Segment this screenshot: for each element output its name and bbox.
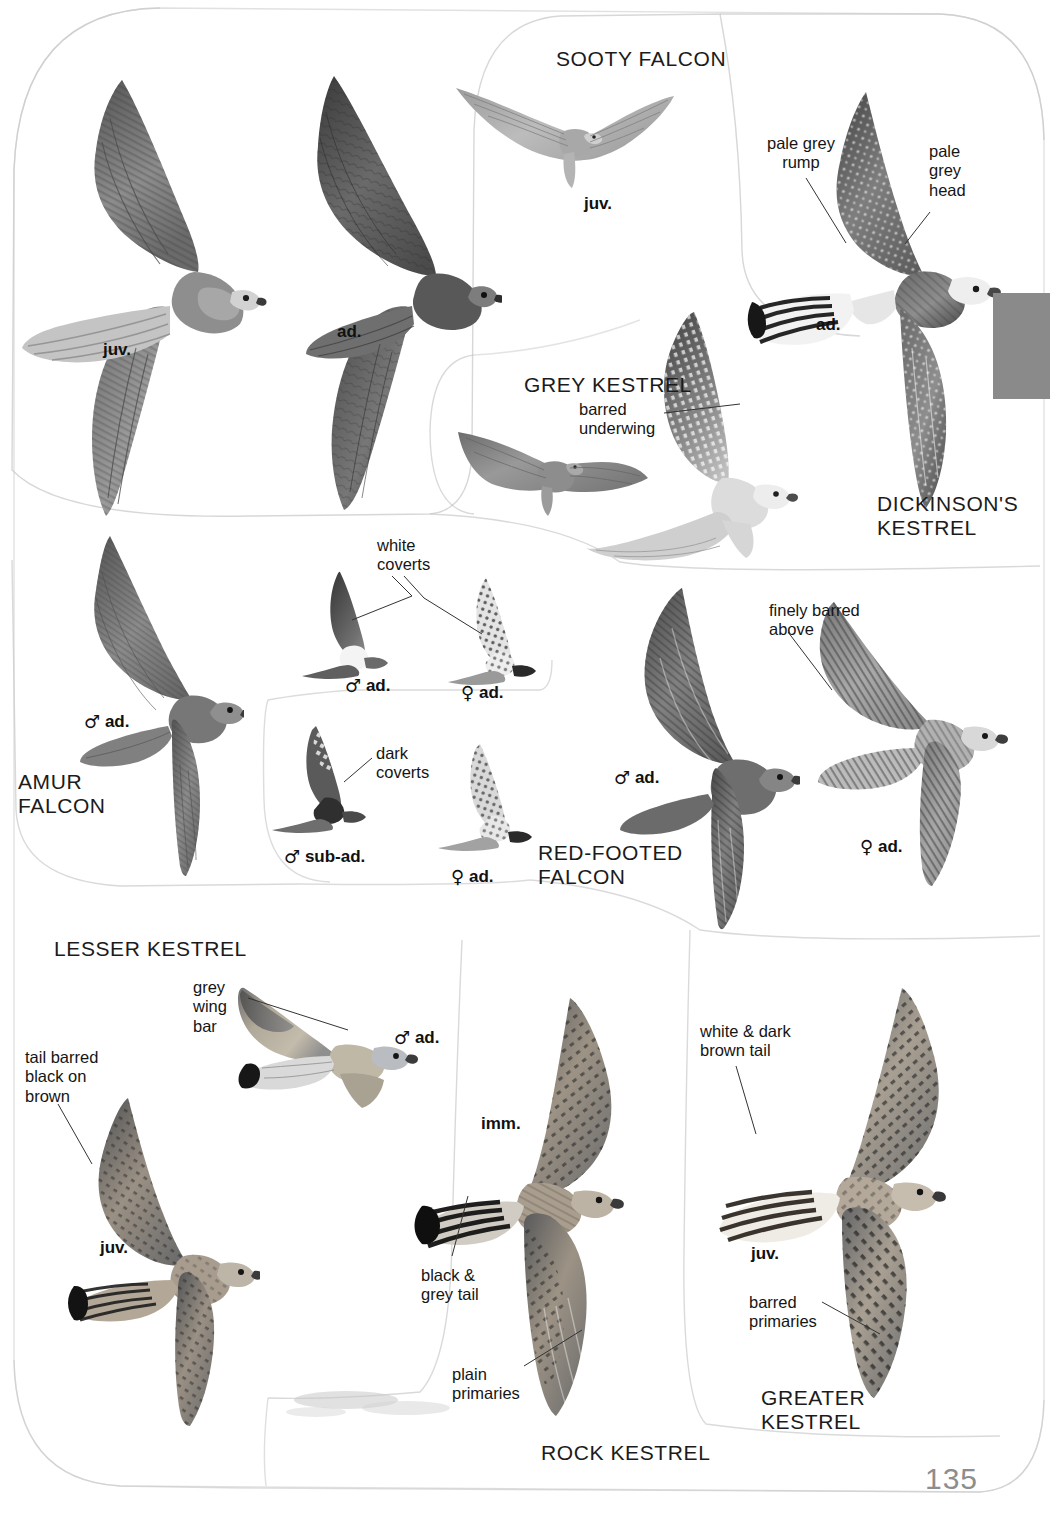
age-label-red-footed-male-adult: ♂ ad. bbox=[614, 766, 659, 788]
field-guide-page: SOOTY FALCON GREY KESTREL DICKINSON'S KE… bbox=[0, 0, 1050, 1526]
annotation-tail-barred-black-on-brown: tail barred black on brown bbox=[25, 1048, 98, 1106]
age-label-amur-male-subadult: ♂ sub-ad. bbox=[284, 845, 365, 867]
bird-amur-falcon-female-underwing-2 bbox=[432, 742, 562, 852]
leader-plain-primaries bbox=[524, 1330, 582, 1366]
male-symbol: ♂ bbox=[345, 675, 361, 696]
leader-finely-barred-above bbox=[788, 632, 832, 690]
male-symbol: ♂ bbox=[394, 1027, 410, 1048]
age-label-amur-male-adult-underwing: ♂ ad. bbox=[345, 674, 390, 696]
leader-tail-barred bbox=[58, 1104, 92, 1164]
leader-pale-grey-head bbox=[905, 212, 930, 244]
annotation-grey-wing-bar: grey wing bar bbox=[193, 978, 227, 1036]
age-text: ad. bbox=[366, 676, 391, 695]
page-edge-tab-marker bbox=[993, 293, 1050, 399]
leader-barred-underwing bbox=[664, 404, 740, 413]
age-label-sooty-adult: ad. bbox=[337, 320, 362, 342]
bird-amur-falcon-male-upperwing bbox=[14, 528, 244, 878]
female-symbol: ♀ bbox=[461, 682, 474, 703]
age-text: ad. bbox=[337, 322, 362, 341]
annotation-finely-barred-above: finely barred above bbox=[769, 601, 860, 640]
age-label-amur-female-adult-underwing: ♀ ad. bbox=[461, 681, 503, 703]
age-text: ad. bbox=[105, 712, 130, 731]
age-text: juv. bbox=[103, 340, 131, 359]
annotation-plain-primaries: plain primaries bbox=[452, 1365, 520, 1404]
age-text: ad. bbox=[878, 837, 903, 856]
male-symbol: ♂ bbox=[84, 711, 100, 732]
annotation-black-grey-tail: black & grey tail bbox=[421, 1266, 479, 1305]
age-text: ad. bbox=[816, 315, 841, 334]
leader-white-dark-brown-tail bbox=[736, 1066, 756, 1134]
age-text: juv. bbox=[100, 1238, 128, 1257]
species-name-red-footed-falcon: RED-FOOTED FALCON bbox=[538, 841, 683, 888]
age-text: imm. bbox=[481, 1114, 521, 1133]
species-name-amur-falcon: AMUR FALCON bbox=[18, 770, 106, 817]
species-name-grey-kestrel: GREY KESTREL bbox=[524, 373, 692, 397]
page-number: 135 bbox=[925, 1462, 978, 1496]
age-label-amur-female-adult-underwing-2: ♀ ad. bbox=[451, 865, 493, 887]
male-symbol: ♂ bbox=[614, 767, 630, 788]
species-name-greater-kestrel: GREATER KESTREL bbox=[761, 1386, 865, 1433]
annotation-white-coverts: white coverts bbox=[377, 536, 430, 575]
species-name-rock-kestrel: ROCK KESTREL bbox=[541, 1441, 710, 1465]
bird-lesser-kestrel-juvenile-upperwing bbox=[30, 1088, 260, 1428]
age-label-sooty-juvenile: juv. bbox=[103, 338, 131, 360]
annotation-pale-grey-rump: pale grey rump bbox=[767, 134, 835, 173]
age-label-dickinsons-adult: ad. bbox=[816, 313, 841, 335]
leader-dark-coverts bbox=[344, 758, 372, 782]
age-text: ad. bbox=[469, 867, 494, 886]
age-label-lesser-juvenile: juv. bbox=[100, 1236, 128, 1258]
ground-shadow-smudge bbox=[276, 1368, 476, 1438]
species-name-sooty-falcon: SOOTY FALCON bbox=[556, 47, 726, 71]
age-label-rock-immature: imm. bbox=[481, 1112, 521, 1134]
age-text: ad. bbox=[635, 768, 660, 787]
age-label-greater-juvenile: juv. bbox=[751, 1242, 779, 1264]
leader-barred-primaries bbox=[822, 1302, 880, 1334]
annotation-pale-grey-head: pale grey head bbox=[929, 142, 966, 200]
age-label-amur-male-adult: ♂ ad. bbox=[84, 710, 129, 732]
leader-black-grey-tail bbox=[452, 1196, 468, 1256]
leader-white-coverts-right bbox=[404, 576, 482, 634]
age-label-sooty-juvenile-small: juv. bbox=[584, 192, 612, 214]
age-text: ad. bbox=[479, 683, 504, 702]
leader-line-layer bbox=[0, 0, 1050, 1526]
annotation-barred-underwing: barred underwing bbox=[579, 400, 655, 439]
panel-outline-layer bbox=[0, 0, 1050, 1526]
age-text: sub-ad. bbox=[305, 847, 365, 866]
female-symbol: ♀ bbox=[860, 836, 873, 857]
age-label-red-footed-female-adult: ♀ ad. bbox=[860, 835, 902, 857]
bird-sooty-falcon-juvenile-upperwing bbox=[18, 58, 268, 518]
leader-white-coverts-left bbox=[352, 576, 412, 620]
age-text: juv. bbox=[584, 194, 612, 213]
leader-pale-grey-rump bbox=[806, 178, 846, 243]
leader-grey-wing-bar bbox=[248, 998, 348, 1030]
age-text: juv. bbox=[751, 1244, 779, 1263]
annotation-white-dark-brown-tail: white & dark brown tail bbox=[700, 1022, 791, 1061]
species-name-dickinsons-kestrel: DICKINSON'S KESTREL bbox=[877, 492, 1018, 539]
bird-amur-falcon-female-underwing bbox=[440, 576, 560, 686]
species-name-lesser-kestrel: LESSER KESTREL bbox=[54, 937, 247, 961]
bird-amur-falcon-male-underwing bbox=[296, 570, 426, 680]
bird-sooty-falcon-juvenile-small bbox=[448, 84, 678, 194]
age-label-lesser-male-adult: ♂ ad. bbox=[394, 1026, 439, 1048]
annotation-dark-coverts: dark coverts bbox=[376, 744, 429, 783]
bird-sooty-falcon-adult-upperwing bbox=[262, 62, 502, 512]
age-text: ad. bbox=[415, 1028, 440, 1047]
annotation-barred-primaries: barred primaries bbox=[749, 1293, 817, 1332]
male-symbol: ♂ bbox=[284, 846, 300, 867]
bird-rock-kestrel-immature-upperwing bbox=[398, 988, 658, 1418]
female-symbol: ♀ bbox=[451, 866, 464, 887]
